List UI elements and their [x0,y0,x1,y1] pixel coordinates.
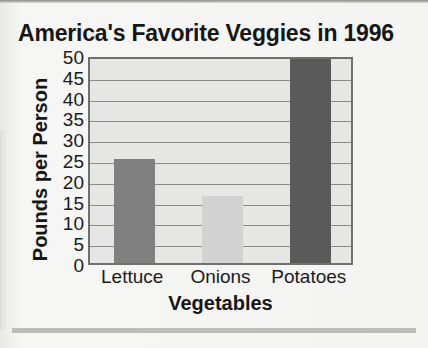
y-tick-label: 35 [52,110,84,129]
page-top-rule [0,0,428,3]
bar-onions [202,196,243,263]
y-tick-label: 0 [52,256,84,275]
y-tick-label: 15 [52,193,84,212]
y-tick-label: 5 [52,235,84,254]
bar-series [90,59,351,263]
y-tick-label: 20 [52,172,84,191]
x-axis-category-labels: LettuceOnionsPotatoes [88,266,353,290]
plot-area [88,57,353,265]
y-axis-tick-labels: 50454035302520151050 [52,57,84,265]
y-tick-label: 45 [52,68,84,87]
x-label-onions: Onions [176,266,264,288]
x-label-potatoes: Potatoes [265,266,353,288]
x-axis-title: Vegetables [88,292,353,315]
y-tick-label: 40 [52,89,84,108]
y-tick-label: 30 [52,131,84,150]
chart-title: America's Favorite Veggies in 1996 [18,20,418,47]
y-tick-label: 10 [52,214,84,233]
y-tick-label: 25 [52,152,84,171]
page-background: America's Favorite Veggies in 1996 Pound… [0,0,428,348]
y-axis-title: Pounds per Person [29,62,52,278]
bar-potatoes [290,59,331,263]
bar-lettuce [114,159,155,263]
page-left-shadow [0,130,14,330]
x-label-lettuce: Lettuce [88,266,176,288]
page-bottom-rule [12,328,416,333]
y-tick-label: 50 [52,48,84,67]
